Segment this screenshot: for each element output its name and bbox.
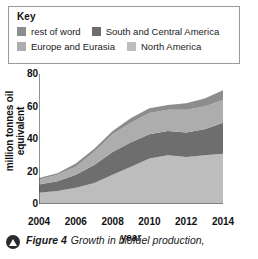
- legend-item-europe-and-eurasia: Europe and Eurasia: [17, 42, 115, 52]
- legend-row: Europe and Eurasia North America: [17, 39, 233, 54]
- chart-plot-area: million tonnes oil equivalent 020406080 …: [0, 64, 258, 224]
- legend-item-label: rest of word: [31, 27, 81, 37]
- x-tick-label: 2012: [175, 216, 197, 227]
- legend-swatch-icon: [17, 27, 26, 36]
- stacked-area-chart: [39, 74, 223, 204]
- legend-item-label: Europe and Eurasia: [31, 42, 115, 52]
- legend-item-south-and-central-america: South and Central America: [92, 27, 220, 37]
- legend-title: Key: [17, 11, 233, 22]
- legend-item-label: South and Central America: [106, 27, 220, 37]
- y-tick-label: 40: [14, 133, 38, 144]
- y-tick-label: 80: [14, 68, 38, 79]
- legend-item-north-america: North America: [127, 42, 201, 52]
- legend-swatch-icon: [17, 42, 26, 51]
- x-tick-label: 2014: [212, 216, 234, 227]
- caption-body: Growth in biofuel production,: [71, 234, 205, 246]
- legend-item-label: North America: [141, 42, 201, 52]
- triangle-bullet-icon: [6, 235, 20, 249]
- legend-item-rest-of-word: rest of word: [17, 27, 81, 37]
- legend-swatch-icon: [127, 42, 136, 51]
- x-tick-label: 2006: [65, 216, 87, 227]
- x-tick-label: 2004: [28, 216, 50, 227]
- chart-legend: Key rest of word South and Central Ameri…: [8, 6, 240, 64]
- legend-row: rest of word South and Central America: [17, 24, 233, 39]
- figure-container: Key rest of word South and Central Ameri…: [0, 0, 258, 259]
- x-tick-label: 2008: [101, 216, 123, 227]
- x-axis-ticks: 200420062008201020122014: [0, 216, 258, 230]
- y-axis-ticks: 020406080: [14, 64, 38, 204]
- y-tick-label: 0: [14, 198, 38, 209]
- figure-caption: Figure 4Growth in biofuel production,: [6, 234, 254, 249]
- caption-figure-number: Figure 4: [26, 234, 67, 246]
- legend-swatch-icon: [92, 27, 101, 36]
- x-tick-label: 2010: [138, 216, 160, 227]
- caption-text: Figure 4Growth in biofuel production,: [26, 234, 205, 247]
- y-tick-label: 20: [14, 166, 38, 177]
- y-tick-label: 60: [14, 101, 38, 112]
